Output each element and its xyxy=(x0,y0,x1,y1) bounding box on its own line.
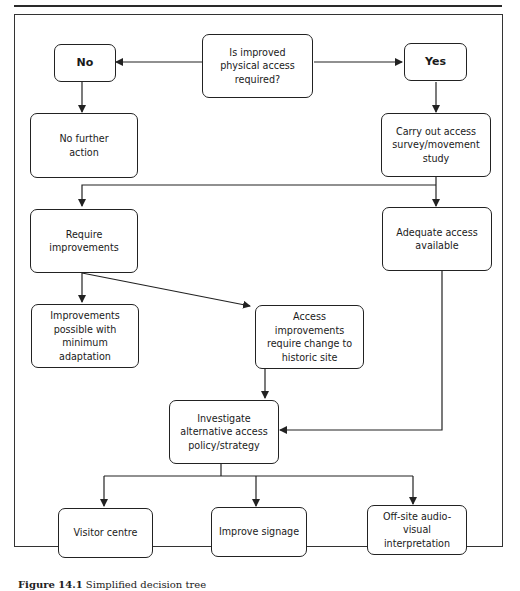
node-change-historic-site: Access improvements require change to hi… xyxy=(255,305,364,369)
node-investigate-alternative: Investigate alternative access policy/st… xyxy=(169,400,279,464)
figure-caption: Figure 14.1 Simplified decision tree xyxy=(18,579,206,590)
caption-text: Simplified decision tree xyxy=(86,579,206,590)
node-adequate-access: Adequate access available xyxy=(382,207,492,271)
node-no: No xyxy=(54,44,116,82)
node-require-improvements: Require improvements xyxy=(30,209,138,273)
node-yes: Yes xyxy=(404,43,467,81)
node-access-survey: Carry out access survey/movement study xyxy=(381,113,491,177)
node-offsite-av: Off-site audio- visual interpretation xyxy=(367,505,467,555)
caption-label: Figure 14.1 xyxy=(18,579,83,590)
node-question: Is improved physical access required? xyxy=(202,34,313,98)
node-minimum-adaptation: Improvements possible with minimum adapt… xyxy=(31,304,139,368)
node-no-further-action: No further action xyxy=(30,113,138,178)
node-visitor-centre: Visitor centre xyxy=(58,508,153,558)
node-improve-signage: Improve signage xyxy=(211,507,307,557)
